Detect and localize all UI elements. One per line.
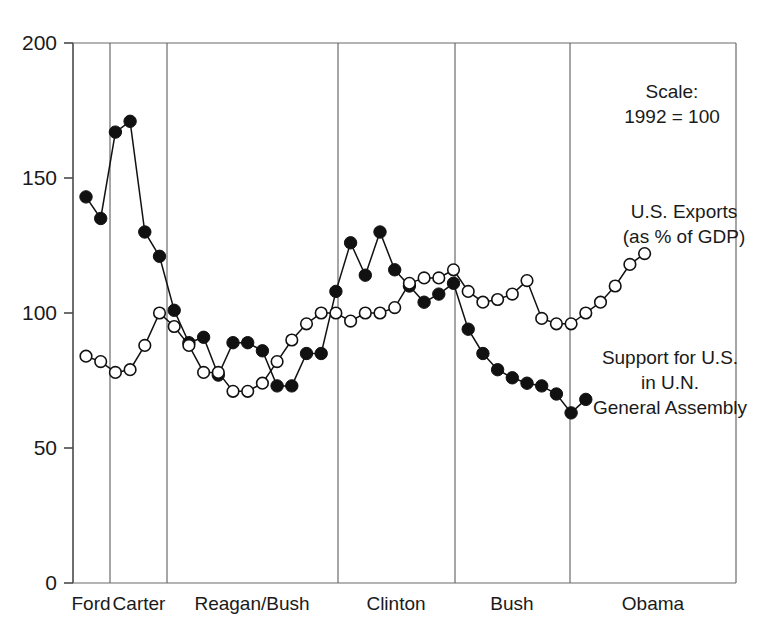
data-point-us-exports-gdp	[609, 280, 621, 292]
exports-label: U.S. Exports(as % of GDP)	[623, 201, 745, 247]
data-point-unga-support	[330, 285, 342, 297]
data-point-us-exports-gdp	[227, 386, 239, 398]
data-point-unga-support	[433, 288, 445, 300]
data-point-us-exports-gdp	[521, 275, 533, 287]
data-point-unga-support	[197, 331, 209, 343]
data-point-us-exports-gdp	[492, 294, 504, 306]
unga-label: Support for U.S.in U.N.General Assembly	[593, 347, 748, 418]
data-point-unga-support	[447, 277, 459, 289]
data-point-us-exports-gdp	[154, 307, 166, 319]
data-point-unga-support	[462, 323, 474, 335]
scale-note: Scale:1992 = 100	[624, 81, 720, 127]
data-point-us-exports-gdp	[477, 296, 489, 308]
data-point-us-exports-gdp	[330, 307, 342, 319]
data-point-unga-support	[80, 191, 92, 203]
era-label-obama: Obama	[622, 593, 685, 614]
data-point-us-exports-gdp	[315, 307, 327, 319]
y-axis-ticks: 050100150200	[22, 31, 73, 594]
data-point-us-exports-gdp	[183, 340, 195, 352]
unga-label-line-0: Support for U.S.	[602, 347, 738, 368]
data-point-unga-support	[580, 393, 592, 405]
data-point-us-exports-gdp	[242, 386, 254, 398]
data-point-us-exports-gdp	[124, 364, 136, 376]
data-point-unga-support	[550, 388, 562, 400]
data-point-us-exports-gdp	[389, 302, 401, 314]
data-point-us-exports-gdp	[168, 321, 180, 333]
line-chart: 050100150200 FordCarterReagan/BushClinto…	[0, 0, 771, 639]
data-point-unga-support	[521, 377, 533, 389]
unga-label-line-2: General Assembly	[593, 397, 748, 418]
data-point-us-exports-gdp	[213, 367, 225, 379]
y-tick-label-150: 150	[22, 166, 57, 189]
data-point-us-exports-gdp	[624, 259, 636, 271]
data-point-unga-support	[300, 347, 312, 359]
chart-annotations: Scale:1992 = 100U.S. Exports(as % of GDP…	[593, 81, 748, 418]
data-point-us-exports-gdp	[301, 318, 313, 330]
era-labels: FordCarterReagan/BushClintonBushObama	[71, 593, 684, 614]
y-tick-label-0: 0	[45, 571, 57, 594]
data-point-unga-support	[344, 237, 356, 249]
data-point-unga-support	[389, 264, 401, 276]
data-point-us-exports-gdp	[139, 340, 151, 352]
data-point-unga-support	[418, 296, 430, 308]
data-point-us-exports-gdp	[507, 288, 519, 300]
data-point-unga-support	[491, 364, 503, 376]
data-point-us-exports-gdp	[595, 296, 607, 308]
data-point-us-exports-gdp	[286, 334, 298, 346]
data-point-unga-support	[95, 212, 107, 224]
data-point-us-exports-gdp	[345, 315, 357, 327]
data-point-us-exports-gdp	[448, 264, 460, 276]
data-point-us-exports-gdp	[433, 272, 445, 284]
data-point-us-exports-gdp	[551, 318, 563, 330]
era-label-clinton: Clinton	[366, 593, 425, 614]
data-point-us-exports-gdp	[360, 307, 372, 319]
series-line-unga-support	[86, 121, 586, 413]
data-point-us-exports-gdp	[639, 248, 651, 260]
data-point-unga-support	[506, 372, 518, 384]
data-point-unga-support	[124, 115, 136, 127]
era-label-ford: Ford	[71, 593, 110, 614]
data-point-unga-support	[242, 337, 254, 349]
data-point-us-exports-gdp	[580, 307, 592, 319]
scale-note-line-1: 1992 = 100	[624, 106, 720, 127]
era-label-carter: Carter	[113, 593, 166, 614]
data-point-us-exports-gdp	[374, 307, 386, 319]
data-point-us-exports-gdp	[198, 367, 210, 379]
data-point-unga-support	[565, 407, 577, 419]
data-point-us-exports-gdp	[80, 350, 92, 362]
data-point-us-exports-gdp	[418, 272, 430, 284]
data-point-unga-support	[315, 347, 327, 359]
data-point-unga-support	[359, 269, 371, 281]
data-point-unga-support	[477, 347, 489, 359]
y-tick-label-100: 100	[22, 301, 57, 324]
exports-label-line-0: U.S. Exports	[631, 201, 738, 222]
data-point-unga-support	[374, 226, 386, 238]
data-point-us-exports-gdp	[95, 356, 107, 368]
data-point-unga-support	[286, 380, 298, 392]
data-point-unga-support	[536, 380, 548, 392]
era-label-reagan-bush: Reagan/Bush	[194, 593, 309, 614]
unga-label-line-1: in U.N.	[641, 372, 699, 393]
data-point-us-exports-gdp	[565, 318, 577, 330]
data-point-unga-support	[227, 337, 239, 349]
chart-container: 050100150200 FordCarterReagan/BushClinto…	[0, 0, 771, 639]
data-point-us-exports-gdp	[271, 356, 283, 368]
data-point-us-exports-gdp	[536, 313, 548, 325]
data-point-us-exports-gdp	[257, 377, 269, 389]
data-point-us-exports-gdp	[462, 286, 474, 298]
y-tick-label-200: 200	[22, 31, 57, 54]
data-point-unga-support	[109, 126, 121, 138]
data-point-unga-support	[271, 380, 283, 392]
scale-note-line-0: Scale:	[646, 81, 699, 102]
data-point-unga-support	[168, 304, 180, 316]
data-point-us-exports-gdp	[404, 278, 416, 290]
era-label-bush: Bush	[490, 593, 533, 614]
data-point-unga-support	[256, 345, 268, 357]
exports-label-line-1: (as % of GDP)	[623, 226, 745, 247]
data-point-us-exports-gdp	[110, 367, 122, 379]
data-point-unga-support	[139, 226, 151, 238]
data-point-unga-support	[153, 250, 165, 262]
y-tick-label-50: 50	[34, 436, 57, 459]
data-series	[80, 115, 651, 419]
